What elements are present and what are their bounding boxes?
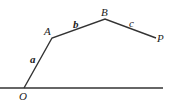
- segment-label-c: c: [129, 17, 134, 29]
- segment-label-a: a: [30, 53, 36, 65]
- point-label-a: A: [43, 25, 51, 37]
- point-label-p: P: [156, 32, 164, 44]
- point-label-o: O: [19, 90, 27, 102]
- point-label-b: B: [101, 6, 108, 18]
- segment-label-b: b: [73, 18, 79, 30]
- linkage-diagram: O A B P a b c: [0, 0, 177, 110]
